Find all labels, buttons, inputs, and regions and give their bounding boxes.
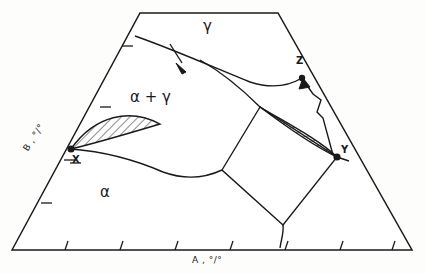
point-marker-Z: [299, 75, 305, 81]
diagram-frame: [12, 13, 412, 250]
point-marker-X: [67, 145, 74, 152]
phase-diagram-figure: γ α + γ α X Y Z A , °/° B , °/°: [0, 0, 425, 274]
point-label-Y: Y: [341, 145, 348, 155]
phase-diagram-canvas: [0, 0, 425, 274]
region-label-alpha: α: [100, 185, 110, 200]
frame-outline: [12, 13, 412, 250]
region-label-alpha-plus-gamma: α + γ: [130, 90, 171, 105]
point-label-Z: Z: [296, 56, 303, 66]
point-label-X: X: [72, 155, 80, 165]
point-marker-Y: [333, 153, 340, 160]
region-label-gamma: γ: [203, 19, 212, 34]
axis-label-A: A , °/°: [192, 256, 222, 265]
